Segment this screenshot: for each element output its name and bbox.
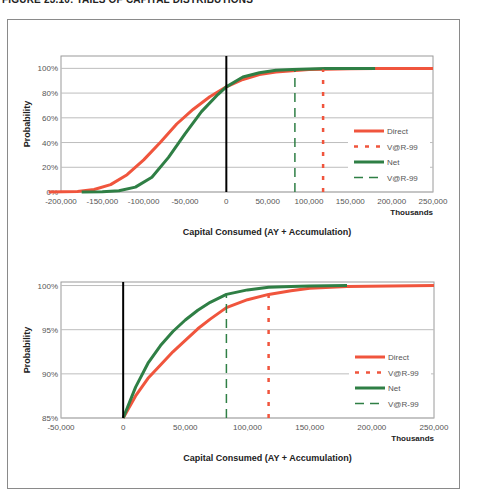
y-tick-labels: 0%20%40%60%80%100% [38, 64, 58, 197]
legend-label: Net [387, 158, 400, 167]
legend: DirectV@R-99NetV@R-99 [348, 122, 430, 186]
x-tick-label: 150,000 [336, 197, 365, 206]
x-tick-label: 100,000 [233, 423, 262, 432]
y-tick-label: 85% [42, 414, 58, 423]
x-unit-label: Thousands [390, 208, 433, 217]
y-tick-label: 60% [42, 114, 58, 123]
y-tick-label: 80% [42, 89, 58, 98]
charts-canvas: 0%20%40%60%80%100% -200,000-150,000-100,… [0, 0, 477, 496]
y-tick-label: 100% [38, 282, 58, 291]
x-tick-label: 50,000 [255, 197, 280, 206]
legend-label: Direct [387, 127, 409, 136]
y-tick-label: 90% [42, 370, 58, 379]
y-tick-label: 95% [42, 326, 58, 335]
x-unit-label: Thousands [391, 434, 434, 443]
x-tick-label: 200,000 [377, 197, 406, 206]
legend-label: Net [388, 384, 401, 393]
x-tick-label: -50,000 [171, 197, 199, 206]
x-tick-label: -200,000 [45, 197, 77, 206]
x-tick-label: 150,000 [295, 423, 324, 432]
y-tick-labels: 85%90%95%100% [38, 282, 58, 423]
legend-label: Direct [388, 353, 410, 362]
x-tick-labels: -200,000-150,000-100,000-50,000050,00010… [45, 197, 448, 206]
y-tick-label: 40% [42, 139, 58, 148]
x-axis-label: Capital Consumed (AY + Accumulation) [183, 453, 351, 463]
x-tick-label: 250,000 [419, 197, 448, 206]
y-axis-label: Probability [22, 101, 32, 148]
y-tick-label: 100% [38, 64, 58, 73]
x-tick-label: 100,000 [295, 197, 324, 206]
legend-label: V@R-99 [388, 369, 419, 378]
chart-top-full-distribution: 0%20%40%60%80%100% -200,000-150,000-100,… [22, 56, 448, 237]
x-tick-label: 50,000 [173, 423, 198, 432]
legend: DirectV@R-99NetV@R-99 [349, 348, 431, 412]
series-line-net [82, 68, 375, 192]
legend-label: V@R-99 [387, 174, 418, 183]
x-tick-label: 200,000 [357, 423, 386, 432]
legend-label: V@R-99 [388, 400, 419, 409]
x-tick-label: -100,000 [128, 197, 160, 206]
legend-label: V@R-99 [387, 143, 418, 152]
y-tick-label: 20% [42, 163, 58, 172]
chart-bottom-tail-zoom: 85%90%95%100% -50,000050,000100,000150,0… [22, 282, 449, 463]
x-tick-label: -50,000 [47, 423, 75, 432]
x-tick-label: 0 [121, 423, 126, 432]
x-tick-label: 250,000 [420, 423, 449, 432]
y-axis-label: Probability [22, 327, 32, 374]
x-axis-label: Capital Consumed (AY + Accumulation) [183, 227, 351, 237]
x-tick-labels: -50,000050,000100,000150,000200,000250,0… [47, 423, 449, 432]
x-tick-label: -150,000 [87, 197, 119, 206]
x-tick-label: 0 [224, 197, 229, 206]
